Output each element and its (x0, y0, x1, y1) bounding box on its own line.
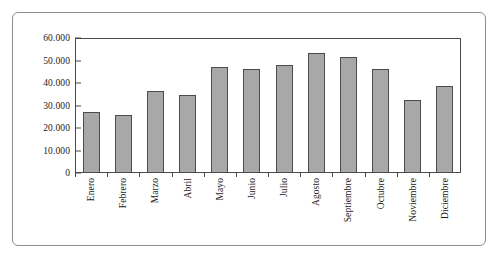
x-tick-mark (139, 173, 140, 177)
bar-slot (139, 38, 171, 173)
bar-slot (172, 38, 204, 173)
x-label-slot: Febrero (107, 178, 139, 240)
bar (308, 53, 325, 173)
x-tick-label: Marzo (150, 178, 160, 203)
x-tick-mark (236, 173, 237, 177)
y-tick-mark (75, 105, 81, 106)
bar-slot (365, 38, 397, 173)
x-tick-mark (397, 173, 398, 177)
y-tick-label: 10.000 (43, 146, 70, 156)
x-tick-label: Octubre (376, 178, 386, 209)
bar-slot (236, 38, 268, 173)
x-label-slot: Marzo (139, 178, 171, 240)
x-tick-mark (365, 173, 366, 177)
bars-layer (75, 38, 461, 173)
x-tick-label: Abril (183, 178, 193, 199)
x-label-slot: Noviembre (397, 178, 429, 240)
x-label-slot: Junio (236, 178, 268, 240)
x-tick-label: Junio (247, 178, 257, 199)
bar-slot (300, 38, 332, 173)
bar (404, 100, 421, 173)
x-tick-label: Mayo (215, 178, 225, 201)
x-tick-label: Febrero (118, 178, 128, 208)
y-tick-label: 50.000 (43, 56, 70, 66)
bar (115, 115, 132, 174)
x-label-slot: Diciembre (429, 178, 461, 240)
bar (179, 95, 196, 173)
bar (372, 69, 389, 173)
bar (147, 91, 164, 173)
y-tick-mark (75, 38, 81, 39)
bar (211, 67, 228, 173)
x-label-slot: Agosto (300, 178, 332, 240)
bar (243, 69, 260, 173)
y-tick-label: 20.000 (43, 123, 70, 133)
x-tick-label: Julio (279, 178, 289, 197)
bar (83, 112, 100, 173)
bar (276, 65, 293, 173)
x-tick-label: Diciembre (440, 178, 450, 219)
x-tick-mark (332, 173, 333, 177)
bar-slot (429, 38, 461, 173)
x-label-slot: Julio (268, 178, 300, 240)
x-label-slot: Enero (75, 178, 107, 240)
bar-slot (107, 38, 139, 173)
x-label-slot: Mayo (204, 178, 236, 240)
x-tick-mark (172, 173, 173, 177)
x-tick-label: Enero (86, 178, 96, 201)
x-label-slot: Octubre (365, 178, 397, 240)
bar-slot (332, 38, 364, 173)
y-axis: 60.00050.00040.00030.00020.00010.0000 (14, 38, 70, 173)
x-tick-mark (107, 173, 108, 177)
bar (436, 86, 453, 173)
y-tick-mark (75, 128, 81, 129)
x-label-slot: Abril (172, 178, 204, 240)
bar-slot (268, 38, 300, 173)
y-tick-label: 30.000 (43, 101, 70, 111)
x-tick-label: Septiembre (343, 178, 353, 222)
bar-chart-figure: 60.00050.00040.00030.00020.00010.0000 En… (0, 0, 500, 264)
y-tick-label: 40.000 (43, 78, 70, 88)
y-tick-mark (75, 150, 81, 151)
x-tick-mark (75, 173, 76, 177)
x-tick-mark (268, 173, 269, 177)
y-tick-mark (75, 83, 81, 84)
x-label-slot: Septiembre (332, 178, 364, 240)
bar-slot (204, 38, 236, 173)
y-tick-mark (75, 173, 81, 174)
y-tick-mark (75, 60, 81, 61)
x-tick-label: Noviembre (408, 178, 418, 222)
x-tick-mark (429, 173, 430, 177)
bar (340, 57, 357, 173)
x-axis-labels: EneroFebreroMarzoAbrilMayoJunioJulioAgos… (75, 178, 461, 240)
x-tick-mark (204, 173, 205, 177)
y-tick-label: 0 (65, 168, 70, 178)
bar-slot (397, 38, 429, 173)
y-tick-label: 60.000 (43, 33, 70, 43)
x-tick-mark (300, 173, 301, 177)
x-tick-label: Agosto (311, 178, 321, 206)
